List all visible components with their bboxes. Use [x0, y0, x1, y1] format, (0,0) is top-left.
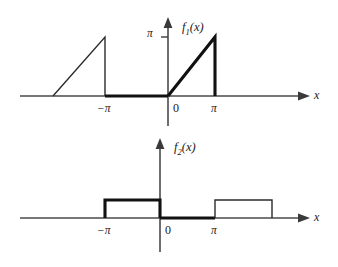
- upper-x-tick-label-zero: 0: [173, 102, 179, 114]
- upper-x-tick-label-pi: π: [211, 103, 217, 115]
- upper-bold-ramp: [168, 37, 215, 96]
- math-figure-two-function-graphs: f1(x) x π −π 0 π f2(x) x −π 0 π: [0, 0, 338, 267]
- lower-x-tick-label-pi: π: [211, 225, 217, 237]
- lower-x-axis-label: x: [314, 211, 319, 223]
- lower-y-axis-label-arg: (x): [182, 140, 196, 154]
- upper-graph-canvas: [0, 0, 338, 135]
- lower-thin-pulse: [215, 200, 272, 218]
- lower-y-axis-label: f2(x): [174, 141, 196, 156]
- upper-x-tick-label-neg-pi: −π: [97, 103, 111, 115]
- upper-y-axis-label-arg: (x): [190, 20, 204, 34]
- lower-bold-pulse: [105, 200, 160, 218]
- upper-x-axis-arrowhead: [298, 92, 310, 101]
- upper-x-axis-label: x: [314, 89, 319, 101]
- lower-x-tick-label-zero: 0: [165, 224, 171, 236]
- upper-y-axis-arrowhead: [164, 17, 173, 28]
- lower-graph-canvas: [0, 132, 338, 267]
- upper-y-tick-label-pi: π: [147, 28, 153, 40]
- lower-x-axis-arrowhead: [298, 214, 310, 223]
- upper-thin-ramp: [53, 37, 105, 96]
- upper-y-axis-label: f1(x): [182, 21, 204, 36]
- lower-y-axis-arrowhead: [156, 138, 165, 149]
- lower-x-tick-label-neg-pi: −π: [97, 225, 111, 237]
